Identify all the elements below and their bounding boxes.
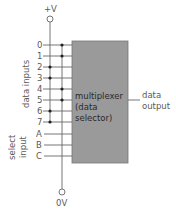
plus-v-label: +V [44, 4, 57, 14]
svg-text:B: B [36, 140, 42, 150]
data-input-1: 1 [37, 51, 72, 61]
svg-text:3: 3 [37, 73, 42, 83]
junction-dot-icon [48, 76, 51, 79]
data-input-3: 3 [37, 73, 72, 83]
junction-dot-icon [48, 65, 51, 68]
box-label-line1: multiplexer [75, 91, 124, 101]
svg-text:7: 7 [37, 117, 42, 127]
svg-text:2: 2 [37, 62, 42, 72]
svg-text:A: A [36, 129, 42, 139]
box-label-line2: (data [75, 102, 97, 112]
select-input-a: A [36, 129, 72, 139]
multiplexer-diagram: +V 0V multiplexer (data selector) data o… [0, 0, 176, 217]
box-label-line3: selector) [75, 113, 112, 123]
data-input-7: 7 [37, 117, 72, 127]
select-input-label-2: input [18, 135, 28, 158]
select-input-c: C [36, 151, 72, 161]
data-input-6: 6 [37, 106, 72, 116]
svg-text:0: 0 [37, 40, 42, 50]
junction-dot-icon [48, 109, 51, 112]
svg-text:6: 6 [37, 106, 42, 116]
svg-text:5: 5 [37, 95, 42, 105]
junction-dot-icon [60, 87, 63, 90]
data-input-2: 2 [37, 62, 72, 72]
junction-dot-icon [60, 43, 63, 46]
junction-dot-icon [60, 54, 63, 57]
data-input-4: 4 [37, 84, 72, 94]
output-label-2: output [142, 101, 171, 111]
zero-v-terminal-icon [59, 189, 65, 195]
output-label-1: data [142, 90, 161, 100]
svg-text:C: C [36, 151, 42, 161]
select-input-label-1: select [7, 134, 17, 160]
junction-dot-icon [48, 120, 51, 123]
svg-text:4: 4 [37, 84, 42, 94]
zero-v-label: 0V [56, 198, 67, 208]
data-inputs-label: data inputs [21, 59, 31, 108]
svg-text:1: 1 [37, 51, 42, 61]
select-input-b: B [36, 140, 72, 150]
data-input-5: 5 [37, 95, 72, 105]
junction-dot-icon [60, 98, 63, 101]
data-input-0: 0 [37, 40, 72, 50]
plus-v-terminal-icon [47, 16, 53, 22]
